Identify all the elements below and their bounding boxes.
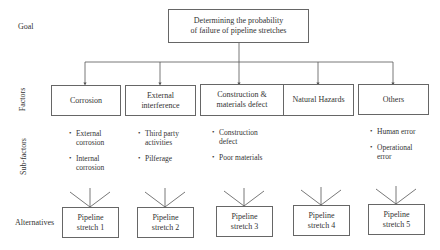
alternative-label: Pipeline bbox=[308, 211, 334, 221]
goal-box: Determining the probability of failure o… bbox=[168, 9, 309, 43]
sub-factor-item: •Externalcorrosion bbox=[69, 129, 104, 147]
factor-label: Others bbox=[383, 95, 404, 105]
alternative-label: Pipeline bbox=[152, 213, 178, 223]
alternative-label: Pipeline bbox=[383, 210, 409, 220]
factor-label: materials defect bbox=[217, 100, 268, 110]
factor-label: Natural Hazards bbox=[292, 95, 344, 105]
sub-factor-item: •Internalcorrosion bbox=[69, 154, 104, 172]
factor-label: Construction & bbox=[217, 90, 267, 100]
sub-factor-list-external-interference: •Third partyactivities •Pilferage bbox=[138, 129, 179, 170]
alternative-box-2: Pipeline stretch 2 bbox=[137, 207, 194, 238]
factor-label: External bbox=[147, 91, 174, 101]
sub-factor-list-construction: •Constructiondefect •Poor materials bbox=[212, 128, 263, 169]
bullet-icon: • bbox=[212, 128, 214, 137]
factor-box-corrosion: Corrosion bbox=[51, 85, 121, 116]
sub-factor-item: •Poor materials bbox=[212, 153, 263, 162]
alternative-label: stretch 2 bbox=[152, 223, 179, 233]
alternative-box-4: Pipeline stretch 4 bbox=[293, 205, 350, 236]
factor-label: Corrosion bbox=[70, 96, 102, 106]
alternative-box-3: Pipeline stretch 3 bbox=[216, 206, 273, 237]
bullet-icon: • bbox=[69, 129, 71, 138]
alternative-label: stretch 4 bbox=[308, 221, 335, 231]
bullet-icon: • bbox=[370, 143, 372, 152]
factor-box-construction-materials-defect: Construction & materials defect bbox=[200, 84, 284, 116]
bullet-icon: • bbox=[212, 153, 214, 162]
sub-factor-item: •Pilferage bbox=[138, 154, 179, 163]
goal-text-line1: Determining the probability bbox=[194, 16, 283, 26]
bullet-icon: • bbox=[69, 154, 71, 163]
bullet-icon: • bbox=[138, 154, 140, 163]
alternative-label: stretch 1 bbox=[77, 223, 104, 233]
sub-factor-item: •Constructiondefect bbox=[212, 128, 263, 146]
alternative-label: Pipeline bbox=[77, 213, 103, 223]
alternative-box-1: Pipeline stretch 1 bbox=[62, 207, 119, 238]
sub-factor-item: •Human error bbox=[370, 127, 416, 136]
bullet-icon: • bbox=[138, 129, 140, 138]
sub-factor-list-others: •Human error •Operationalerror bbox=[370, 127, 416, 168]
factor-label: interference bbox=[141, 101, 179, 111]
row-label-alternatives: Alternatives bbox=[15, 218, 54, 227]
factor-box-external-interference: External interference bbox=[125, 85, 196, 116]
sub-factor-item: •Third partyactivities bbox=[138, 129, 179, 147]
alternative-box-5: Pipeline stretch 5 bbox=[368, 204, 425, 235]
bullet-icon: • bbox=[370, 127, 372, 136]
alternative-label: Pipeline bbox=[231, 212, 257, 222]
row-label-factors: Factors bbox=[18, 84, 27, 116]
alternative-label: stretch 5 bbox=[383, 220, 410, 230]
factor-box-others: Others bbox=[358, 84, 429, 115]
sub-factor-item: •Operationalerror bbox=[370, 143, 416, 161]
sub-factor-list-corrosion: •Externalcorrosion •Internalcorrosion bbox=[69, 129, 104, 179]
alternative-label: stretch 3 bbox=[231, 222, 258, 232]
factor-box-natural-hazards: Natural Hazards bbox=[283, 84, 354, 116]
row-label-sub-factors: Sub-factors bbox=[19, 135, 28, 179]
goal-text-line2: of failure of pipeline stretches bbox=[191, 26, 287, 36]
row-label-goal: Goal bbox=[18, 22, 34, 31]
